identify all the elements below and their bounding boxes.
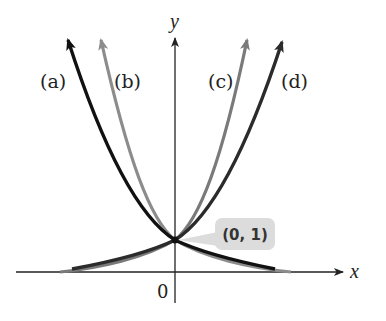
- exponential-graph: (0, 1) (a) (b) (c) (d) y x 0: [0, 0, 386, 321]
- x-axis-label: x: [349, 260, 359, 282]
- intersection-point: [172, 237, 179, 244]
- origin-label: 0: [157, 281, 168, 302]
- y-axis-label: y: [168, 10, 179, 33]
- callout-label: (0, 1): [222, 226, 268, 244]
- label-d: (d): [281, 70, 308, 92]
- label-b: (b): [114, 70, 141, 92]
- label-a: (a): [40, 70, 66, 92]
- label-c: (c): [208, 70, 233, 92]
- graph-canvas: (0, 1) (a) (b) (c) (d) y x 0: [0, 0, 386, 321]
